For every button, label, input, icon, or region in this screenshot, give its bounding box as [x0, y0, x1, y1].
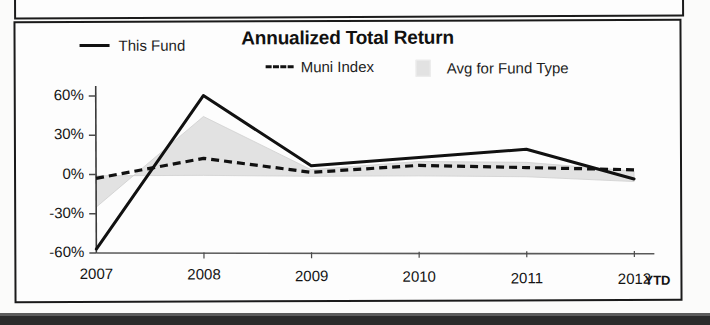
y-axis-tick-0: 60%: [26, 86, 84, 103]
x-axis-tick-2007: 2007: [65, 265, 127, 282]
scanned-page: Annualized Total Return This Fund Muni I…: [0, 0, 710, 325]
plot-svg: [15, 21, 680, 302]
plot-area: 60%30%0%-30%-60% 20072008200920102011201…: [15, 21, 680, 302]
y-axis-tick-4: -60%: [26, 243, 84, 260]
clipped-panel-above: [14, 0, 684, 19]
x-axis-tick-2008: 2008: [173, 266, 235, 283]
x-axis-tick-2009: 2009: [281, 267, 343, 284]
chart-panel: Annualized Total Return This Fund Muni I…: [13, 19, 682, 304]
scan-bottom-bar: [0, 313, 710, 325]
y-axis-tick-2: 0%: [26, 165, 84, 182]
x-axis-tick-2011: 2011: [496, 269, 558, 286]
y-axis-tick-3: -30%: [26, 204, 84, 221]
x-axis-tick-2010: 2010: [388, 268, 450, 285]
y-axis-tick-1: 30%: [26, 125, 84, 142]
ytd-label: YTD: [644, 273, 670, 288]
